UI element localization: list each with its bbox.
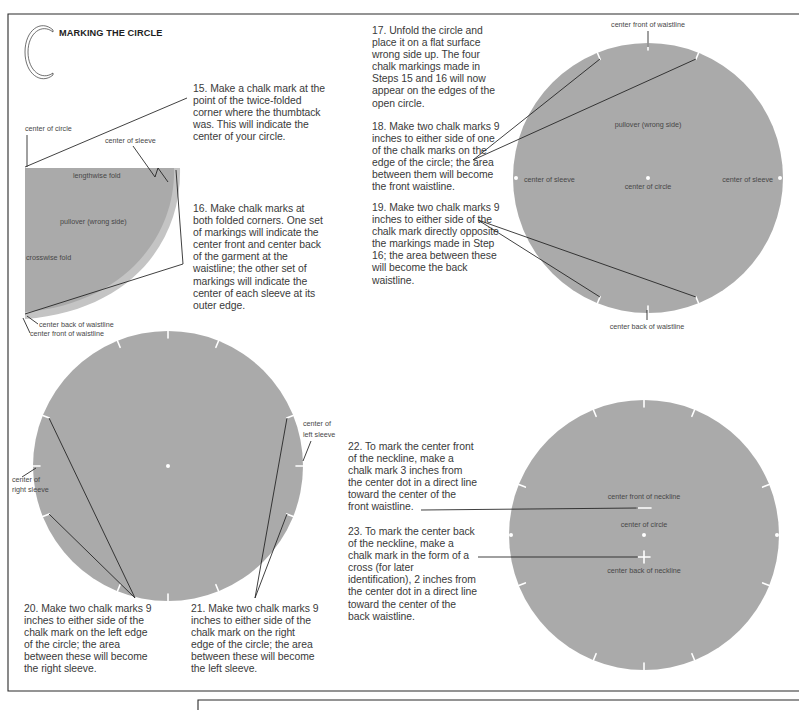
center-dot xyxy=(166,464,170,468)
drop-cap-c-icon xyxy=(25,26,53,79)
label-center-of-left-sleeve-1: center of xyxy=(303,419,331,428)
page-title: MARKING THE CIRCLE xyxy=(59,28,162,38)
label-center-of-sleeve-left: center of sleeve xyxy=(524,175,575,184)
center-dot xyxy=(646,176,650,180)
step-16-text: 16. Make chalk marks at both folded corn… xyxy=(193,203,323,312)
sleeve-circle-diagram: center of right sleeve center of left sl… xyxy=(12,331,335,601)
label-center-of-circle: center of circle xyxy=(625,182,672,191)
label-center-back-waistline: center back of waistline xyxy=(39,320,114,329)
step-15-text: 15. Make a chalk mark at the point of th… xyxy=(193,83,325,143)
label-center-of-right-sleeve-1: center of xyxy=(12,475,40,484)
label-crosswise-fold: crosswise fold xyxy=(26,253,71,262)
label-lengthwise-fold: lengthwise fold xyxy=(73,171,121,180)
step-20-text: 20. Make two chalk marks 9 inches to eit… xyxy=(24,603,151,676)
label-center-front-neckline: center front of neckline xyxy=(608,492,681,501)
label-center-of-sleeve-right: center of sleeve xyxy=(722,175,773,184)
pointer-center-front-waistline xyxy=(23,318,30,333)
label-center-back-waistline: center back of waistline xyxy=(610,322,685,331)
step-18-text: 18. Make two chalk marks 9 inches to eit… xyxy=(372,121,499,194)
label-center-front-waistline: center front of waistline xyxy=(30,329,104,338)
open-circle-diagram: center front of waistline pullover (wron… xyxy=(473,20,783,331)
label-center-of-circle: center of circle xyxy=(621,520,668,529)
step-19-text: 19. Make two chalk marks 9 inches to eit… xyxy=(372,202,499,287)
step-21-text: 21. Make two chalk marks 9 inches to eit… xyxy=(191,603,318,676)
pointer-center-of-left-sleeve xyxy=(303,441,311,461)
label-center-of-right-sleeve-2: right sleeve xyxy=(12,485,49,494)
step-22-text: 22. To mark the center front of the neck… xyxy=(348,441,477,514)
label-center-of-left-sleeve-2: left sleeve xyxy=(303,430,335,439)
step-17-text: 17. Unfold the circle and place it on a … xyxy=(372,25,495,110)
label-center-of-circle: center of circle xyxy=(25,124,72,133)
label-pullover-wrong-side: pullover (wrong side) xyxy=(60,217,127,226)
instruction-page: center of circle center of sleeve length… xyxy=(0,0,799,710)
center-dot xyxy=(642,533,646,537)
label-center-back-neckline: center back of neckline xyxy=(607,566,681,575)
label-center-of-sleeve: center of sleeve xyxy=(105,136,156,145)
step-23-text: 23. To mark the center back of the neckl… xyxy=(348,526,477,623)
label-center-front-waistline: center front of waistline xyxy=(611,20,685,29)
folded-quarter-diagram: center of circle center of sleeve length… xyxy=(23,98,187,338)
label-pullover-wrong-side: pullover (wrong side) xyxy=(615,120,682,129)
